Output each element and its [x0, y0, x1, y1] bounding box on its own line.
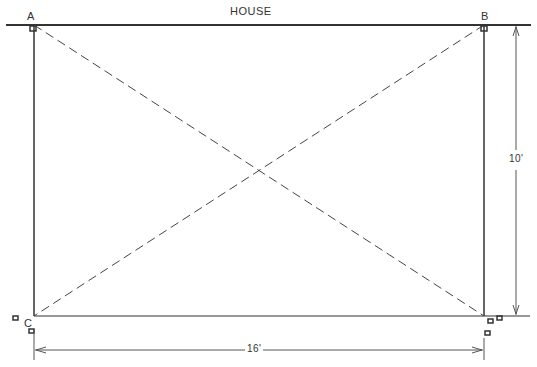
- corner-label-a: A: [27, 10, 35, 22]
- corner-stake-d2: [497, 316, 502, 320]
- house-label: HOUSE: [230, 5, 272, 17]
- corner-label-b: B: [481, 10, 489, 22]
- corner-stake-d3: [485, 331, 490, 335]
- height-dimension-label: 10': [509, 153, 524, 164]
- layout-diagram: [0, 0, 537, 367]
- width-dimension-label: 16': [247, 343, 262, 354]
- corner-stake-a: [30, 26, 36, 31]
- corner-stake-c1: [13, 316, 18, 320]
- corner-label-c: C: [24, 317, 32, 329]
- corner-stake-d1: [488, 319, 493, 323]
- corner-stake-c2: [29, 329, 34, 333]
